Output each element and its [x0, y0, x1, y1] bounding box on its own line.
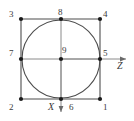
node-label-8: 8 — [58, 8, 63, 17]
axis-x-arrowhead — [59, 106, 64, 112]
node-marker-5 — [98, 57, 102, 61]
node-label-1: 1 — [103, 103, 108, 112]
axis-label-z: Z — [117, 61, 123, 71]
axis-x-group — [59, 59, 64, 112]
node-marker-4 — [98, 17, 102, 21]
node-marker-8 — [59, 17, 63, 21]
node-marker-6 — [59, 97, 63, 101]
node-label-9: 9 — [62, 46, 67, 55]
node-marker-1 — [98, 97, 102, 101]
axis-label-x: X — [48, 102, 54, 112]
node-marker-9 — [59, 57, 63, 61]
node-marker-7 — [19, 57, 23, 61]
node-label-2: 2 — [9, 103, 14, 112]
node-label-5: 5 — [103, 49, 108, 58]
node-label-3: 3 — [9, 10, 14, 19]
node-label-7: 7 — [9, 49, 14, 58]
node-marker-3 — [19, 17, 23, 21]
element-diagram-figure: 3 8 4 7 9 5 2 6 1 Z X — [0, 0, 134, 121]
element-diagram-canvas — [0, 0, 134, 121]
node-label-4: 4 — [103, 10, 108, 19]
node-label-6: 6 — [69, 103, 74, 112]
node-marker-2 — [19, 97, 23, 101]
